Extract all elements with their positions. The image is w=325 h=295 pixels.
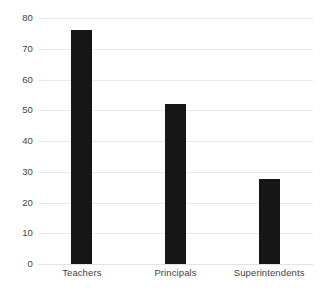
bar bbox=[71, 30, 92, 264]
x-axis-tick-label: Teachers bbox=[62, 268, 101, 278]
bar-chart: 01020304050607080 TeachersPrincipalsSupe… bbox=[0, 0, 325, 295]
y-axis-tick-label: 50 bbox=[0, 106, 33, 116]
y-axis-tick-label: 20 bbox=[0, 198, 33, 208]
x-axis: TeachersPrincipalsSuperintendents bbox=[38, 268, 313, 288]
y-axis-tick-label: 80 bbox=[0, 13, 33, 23]
y-axis-tick-label: 70 bbox=[0, 44, 33, 54]
y-axis-tick-label: 40 bbox=[0, 136, 33, 146]
y-axis-tick-label: 10 bbox=[0, 229, 33, 239]
x-axis-tick-label: Principals bbox=[154, 268, 196, 278]
y-axis-tick-label: 0 bbox=[0, 259, 33, 269]
y-axis-tick-label: 60 bbox=[0, 75, 33, 85]
gridline bbox=[38, 264, 313, 265]
x-axis-tick-label: Superintendents bbox=[234, 268, 305, 278]
bar bbox=[165, 104, 186, 264]
y-axis-tick-label: 30 bbox=[0, 167, 33, 177]
plot-area bbox=[38, 18, 313, 264]
bar bbox=[259, 179, 280, 264]
